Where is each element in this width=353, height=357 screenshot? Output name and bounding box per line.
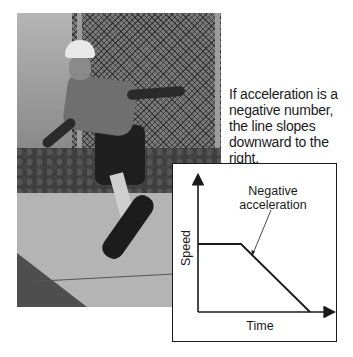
- skater-torso: [62, 73, 139, 137]
- caption-text: If acceleration is a negative number, th…: [229, 86, 353, 166]
- annotation-line1: Negative: [248, 184, 297, 198]
- graph-svg: Negative acceleration Time Speed: [173, 164, 336, 341]
- fence-post: [215, 13, 220, 153]
- annotation-line2: acceleration: [239, 198, 306, 212]
- y-axis-label: Speed: [179, 230, 193, 266]
- annotation-pointer: [252, 210, 271, 256]
- speed-line: [198, 244, 310, 312]
- skater-head: [69, 56, 91, 80]
- x-axis-label: Time: [246, 319, 273, 333]
- speed-time-graph: Negative acceleration Time Speed: [172, 163, 337, 342]
